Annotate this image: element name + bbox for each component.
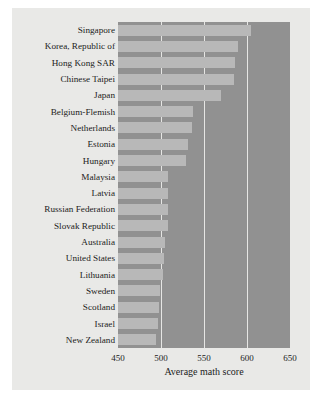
bar-japan xyxy=(118,90,221,101)
category-label-hungary: Hungary xyxy=(12,156,115,166)
bar-fill xyxy=(118,122,192,133)
bar-israel xyxy=(118,318,158,329)
bar-united-states xyxy=(118,253,164,264)
bar-hungary xyxy=(118,155,186,166)
bar-australia xyxy=(118,237,165,248)
category-label-sweden: Sweden xyxy=(12,286,115,296)
bar-chinese-taipei xyxy=(118,74,234,85)
category-label-latvia: Latvia xyxy=(12,188,115,198)
x-tick-550: 550 xyxy=(197,352,211,364)
category-label-new-zealand: New Zealand xyxy=(12,335,115,345)
bar-fill xyxy=(118,74,234,85)
x-tick-600: 600 xyxy=(240,352,254,364)
bar-fill xyxy=(118,155,186,166)
bar-fill xyxy=(118,237,165,248)
x-tick-650: 650 xyxy=(283,352,297,364)
category-label-australia: Australia xyxy=(12,237,115,247)
category-label-korea-republic-of: Korea, Republic of xyxy=(12,41,115,51)
bar-estonia xyxy=(118,139,188,150)
bar-fill xyxy=(118,41,238,52)
bar-netherlands xyxy=(118,122,192,133)
bar-singapore xyxy=(118,25,251,36)
bar-latvia xyxy=(118,188,168,199)
bar-fill xyxy=(118,318,158,329)
bar-fill xyxy=(118,253,164,264)
category-label-singapore: Singapore xyxy=(12,25,115,35)
bar-russian-federation xyxy=(118,204,168,215)
bar-scotland xyxy=(118,302,159,313)
bar-fill xyxy=(118,171,168,182)
category-label-scotland: Scotland xyxy=(12,302,115,312)
bar-fill xyxy=(118,106,193,117)
category-label-malaysia: Malaysia xyxy=(12,172,115,182)
category-label-belgium-flemish: Belgium-Flemish xyxy=(12,107,115,117)
category-label-hong-kong-sar: Hong Kong SAR xyxy=(12,58,115,68)
bar-fill xyxy=(118,269,163,280)
bar-fill xyxy=(118,25,251,36)
bar-fill xyxy=(118,90,221,101)
category-axis-labels: SingaporeKorea, Republic ofHong Kong SAR… xyxy=(12,22,115,348)
x-tick-450: 450 xyxy=(111,352,125,364)
bar-fill xyxy=(118,302,159,313)
category-label-estonia: Estonia xyxy=(12,139,115,149)
plot-area xyxy=(118,22,290,348)
category-label-japan: Japan xyxy=(12,90,115,100)
bar-sweden xyxy=(118,285,160,296)
bar-malaysia xyxy=(118,171,168,182)
category-label-israel: Israel xyxy=(12,319,115,329)
figure-panel: SingaporeKorea, Republic ofHong Kong SAR… xyxy=(12,8,310,390)
bar-fill xyxy=(118,57,235,68)
bar-fill xyxy=(118,139,188,150)
bar-fill xyxy=(118,285,160,296)
bar-new-zealand xyxy=(118,334,156,345)
x-axis-label: Average math score xyxy=(118,366,290,377)
category-label-lithuania: Lithuania xyxy=(12,270,115,280)
x-axis-tick-labels: 450500550600650 xyxy=(118,352,290,366)
category-label-slovak-republic: Slovak Republic xyxy=(12,221,115,231)
bar-belgium-flemish xyxy=(118,106,193,117)
bar-fill xyxy=(118,334,156,345)
bar-korea-republic-of xyxy=(118,41,238,52)
bar-fill xyxy=(118,220,168,231)
category-label-netherlands: Netherlands xyxy=(12,123,115,133)
bar-fill xyxy=(118,204,168,215)
bar-hong-kong-sar xyxy=(118,57,235,68)
bar-lithuania xyxy=(118,269,163,280)
bar-series xyxy=(118,22,290,348)
category-label-chinese-taipei: Chinese Taipei xyxy=(12,74,115,84)
bar-fill xyxy=(118,188,168,199)
category-label-russian-federation: Russian Federation xyxy=(12,204,115,214)
category-label-united-states: United States xyxy=(12,253,115,263)
bar-slovak-republic xyxy=(118,220,168,231)
x-tick-500: 500 xyxy=(154,352,168,364)
